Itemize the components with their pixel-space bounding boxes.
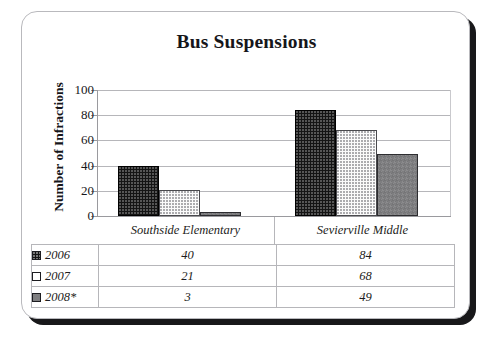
table-value-2007-col1: 21 xyxy=(99,266,277,287)
table-row: 2008*349 xyxy=(32,287,455,308)
y-tick-label-60: 60 xyxy=(48,132,94,148)
legend-swatch-2007-icon xyxy=(32,272,41,281)
legend-label-2007: 2007 xyxy=(45,269,70,284)
table-value-2008-col2: 49 xyxy=(277,287,455,308)
data-table-body: 20064084200721682008*349 xyxy=(32,245,455,308)
bar-2007-group1[interactable] xyxy=(159,190,200,216)
bar-2006-group2[interactable] xyxy=(295,110,336,216)
table-row: 20064084 xyxy=(32,245,455,266)
table-value-2008-col1: 3 xyxy=(99,287,277,308)
bar-group-2 xyxy=(275,90,452,216)
category-label-southside: Southside Elementary xyxy=(97,217,274,244)
legend-cell-2006[interactable]: 2006 xyxy=(32,245,99,266)
legend-swatch-2006-icon xyxy=(32,251,41,260)
y-tick-label-0: 0 xyxy=(48,208,94,224)
y-tick-label-20: 20 xyxy=(48,183,94,199)
legend-label-2008: 2008* xyxy=(45,290,76,305)
bar-2008-group2[interactable] xyxy=(377,154,418,216)
legend-cell-2007[interactable]: 2007 xyxy=(32,266,99,287)
bar-2006-group1[interactable] xyxy=(118,166,159,216)
y-tick-label-40: 40 xyxy=(48,158,94,174)
category-axis: Southside Elementary Sevierville Middle xyxy=(97,216,451,244)
y-tick-label-80: 80 xyxy=(48,107,94,123)
y-tick-label-100: 100 xyxy=(48,82,94,98)
bar-group-1 xyxy=(98,90,275,216)
legend-label-2006: 2006 xyxy=(45,248,70,263)
plot-wrapper: 020406080100 xyxy=(97,90,451,216)
table-value-2007-col2: 68 xyxy=(277,266,455,287)
table-row: 20072168 xyxy=(32,266,455,287)
plot-area xyxy=(97,90,451,216)
table-value-2006-col1: 40 xyxy=(99,245,277,266)
chart-card: Bus Suspensions Number of Infractions 02… xyxy=(21,11,470,319)
page-title: Bus Suspensions xyxy=(22,31,471,53)
data-table: 20064084200721682008*349 xyxy=(31,244,455,308)
legend-swatch-2008-icon xyxy=(32,293,41,302)
table-value-2006-col2: 84 xyxy=(277,245,455,266)
legend-cell-2008[interactable]: 2008* xyxy=(32,287,99,308)
category-label-sevierville: Sevierville Middle xyxy=(274,217,451,244)
bar-2007-group2[interactable] xyxy=(336,130,377,216)
